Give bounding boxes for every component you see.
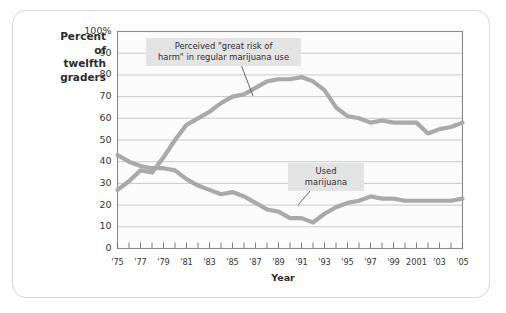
annotation-risk-label: Perceived "great risk of harm" in regula…	[146, 38, 301, 66]
y-tick-label-60: 60	[82, 112, 112, 123]
x-axis-title: Year	[253, 272, 313, 283]
annotation-use-label: Used marijuana	[288, 163, 364, 191]
y-tick-label-100: 100%	[78, 25, 112, 36]
y-tick-label-80: 80	[82, 68, 112, 79]
y-tick-label-30: 30	[82, 177, 112, 188]
y-tick-label-50: 50	[82, 134, 112, 145]
y-tick-label-40: 40	[82, 155, 112, 166]
y-tick-label-20: 20	[82, 199, 112, 210]
chart-figure: Percent of twelfth graders 0102030405060…	[0, 0, 506, 313]
y-tick-label-70: 70	[82, 90, 112, 101]
x-tick-label-2005: '05	[450, 257, 476, 267]
y-tick-label-0: 0	[82, 242, 112, 253]
y-tick-label-10: 10	[82, 220, 112, 231]
y-tick-label-90: 90	[82, 47, 112, 58]
